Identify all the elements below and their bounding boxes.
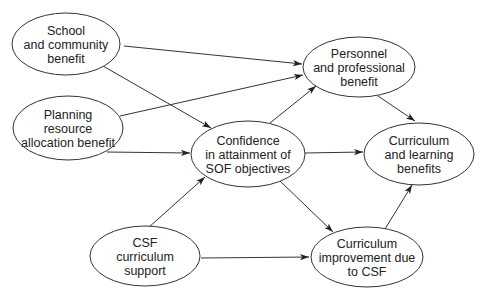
node-label-line: benefit xyxy=(340,75,378,89)
arrow-planning-to-confidence xyxy=(107,152,190,153)
node-label-line: allocation benefit xyxy=(21,136,115,150)
arrow-confidence-to-curriculum_learning xyxy=(305,152,363,153)
node-curriculum-improvement: Curriculumimprovement dueto CSF xyxy=(311,227,423,287)
arrow-csf_support-to-curriculum_improvement xyxy=(201,257,309,258)
node-label-line: and professional xyxy=(313,61,405,75)
path-diagram: Schooland communitybenefitPlanningresour… xyxy=(0,0,486,296)
node-label-line: Confidence xyxy=(216,134,279,148)
node-csf-support: CSFcurriculumsupport xyxy=(90,226,200,286)
node-label-line: Planning xyxy=(44,108,93,122)
node-label-line: and learning xyxy=(385,148,454,162)
node-school: Schooland communitybenefit xyxy=(12,13,120,75)
node-label-line: and community xyxy=(24,38,110,52)
node-label-line: SOF objectives xyxy=(206,162,291,176)
node-label-line: resource xyxy=(44,122,93,136)
node-label-line: Personnel xyxy=(331,47,387,61)
node-label-line: benefit xyxy=(47,52,85,66)
node-label-line: School xyxy=(47,24,85,38)
nodes-layer: Schooland communitybenefitPlanningresour… xyxy=(12,13,474,287)
node-personnel: Personneland professionalbenefit xyxy=(303,37,415,97)
node-label-line: support xyxy=(124,264,166,278)
node-label-line: benefits xyxy=(397,162,441,176)
arrow-confidence-to-curriculum_improvement xyxy=(280,181,333,232)
arrow-planning-to-personnel xyxy=(120,75,303,116)
arrow-curriculum_improvement-to-curriculum_learning xyxy=(385,185,412,229)
node-label-line: curriculum xyxy=(116,250,174,264)
node-label-line: improvement due xyxy=(319,251,416,265)
arrow-school-to-personnel xyxy=(124,46,302,64)
node-label-line: Curriculum xyxy=(337,237,397,251)
arrow-personnel-to-curriculum_learning xyxy=(378,96,415,121)
node-confidence: Confidencein attainment ofSOF objectives xyxy=(191,121,305,187)
node-label-line: Curriculum xyxy=(389,134,449,148)
arrow-confidence-to-personnel xyxy=(270,86,316,123)
node-label-line: in attainment of xyxy=(205,148,291,162)
node-label-line: to CSF xyxy=(348,265,387,279)
arrow-csf_support-to-confidence xyxy=(148,177,205,228)
node-label-line: CSF xyxy=(133,236,158,250)
node-curriculum-learning: Curriculumand learningbenefits xyxy=(364,123,474,185)
node-planning: Planningresourceallocation benefit xyxy=(13,96,123,160)
